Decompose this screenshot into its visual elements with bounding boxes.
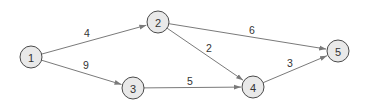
graph-node-2: 2 — [147, 11, 169, 33]
graph-node-5: 5 — [327, 40, 349, 62]
node-label: 5 — [335, 46, 341, 58]
edge-weight-label: 5 — [187, 75, 193, 87]
edge-1-to-2 — [42, 25, 147, 54]
graph-node-3: 3 — [122, 77, 144, 99]
graph-canvas: 496253 12345 — [0, 0, 369, 106]
node-label: 2 — [155, 17, 161, 29]
edge-weight-label: 3 — [287, 57, 293, 69]
graph-node-4: 4 — [242, 76, 264, 98]
node-label: 1 — [28, 52, 34, 64]
edge-weight-label: 4 — [84, 27, 90, 39]
graph-node-1: 1 — [20, 46, 42, 68]
edge-3-to-4 — [144, 87, 241, 88]
edge-weight-label: 9 — [83, 59, 89, 71]
edge-weight-label: 6 — [249, 24, 255, 36]
edge-1-to-3 — [42, 60, 122, 84]
edge-labels-layer: 496253 — [83, 24, 293, 87]
nodes-layer: 12345 — [20, 11, 349, 99]
edge-weight-label: 2 — [206, 42, 212, 54]
edge-4-to-5 — [263, 56, 327, 83]
node-label: 3 — [130, 83, 136, 95]
directed-graph: 496253 12345 — [0, 0, 369, 106]
node-label: 4 — [250, 82, 256, 94]
edge-2-to-4 — [167, 28, 243, 80]
